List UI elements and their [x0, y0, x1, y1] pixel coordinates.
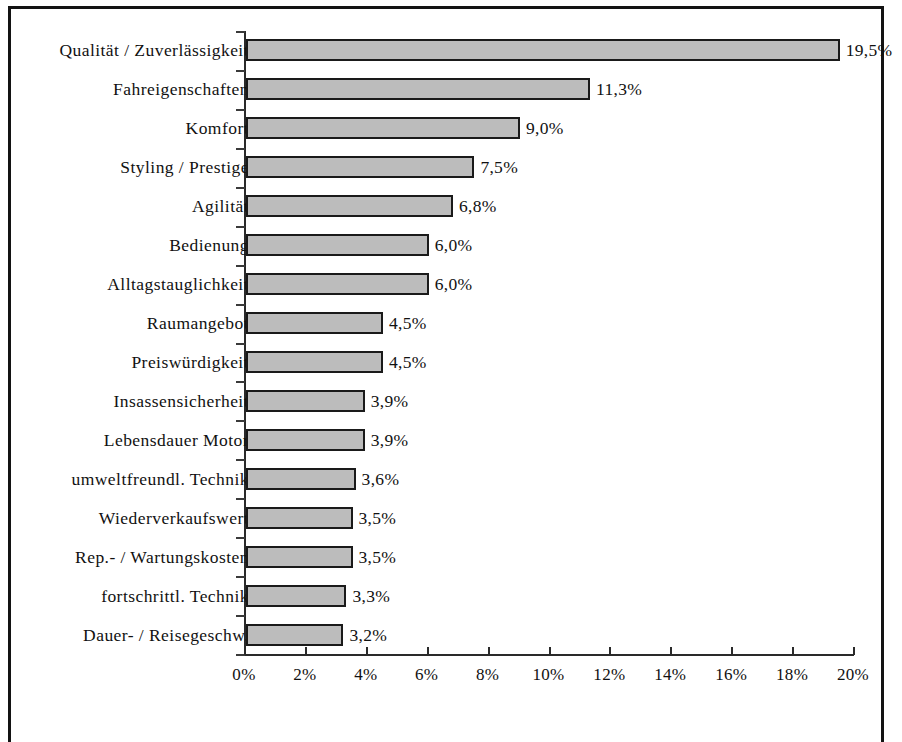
category-label: Komfort	[186, 118, 249, 139]
category-label: Wiederverkaufswert	[99, 507, 249, 528]
bar-value-label: 6,0%	[435, 235, 473, 256]
bar-value-label: 3,5%	[359, 546, 397, 567]
x-tick-label: 0%	[232, 665, 255, 685]
bar-row: Alltagstauglichkeit6,0%	[11, 265, 887, 304]
bar-row: Styling / Prestige7,5%	[11, 148, 887, 187]
category-label: Fahreigenschaften	[113, 79, 249, 100]
category-label: Preiswürdigkeit	[131, 351, 249, 372]
x-tick-label: 6%	[415, 665, 438, 685]
bar-value-label: 3,2%	[349, 624, 387, 645]
bar	[246, 234, 429, 256]
bar-chart: Qualität / Zuverlässigkeit19,5%Fahreigen…	[11, 9, 887, 709]
category-label: Dauer- / Reisegeschw.	[83, 624, 249, 645]
bar	[246, 156, 474, 178]
bar-row: umweltfreundl. Technik3,6%	[11, 459, 887, 498]
category-label: umweltfreundl. Technik	[72, 468, 249, 489]
bar	[246, 351, 383, 373]
bar-value-label: 4,5%	[389, 313, 427, 334]
category-label: Raumangebot	[147, 313, 249, 334]
bar	[246, 585, 346, 607]
bar	[246, 429, 365, 451]
category-label: Styling / Prestige	[120, 157, 249, 178]
bar	[246, 39, 840, 61]
category-label: Agilität	[192, 196, 249, 217]
bar-row: Insassensicherheit3,9%	[11, 381, 887, 420]
x-tick-label: 18%	[776, 665, 808, 685]
x-tick-label: 10%	[532, 665, 564, 685]
bar-value-label: 3,9%	[371, 390, 409, 411]
bar	[246, 390, 365, 412]
category-label: Alltagstauglichkeit	[107, 274, 249, 295]
bar-row: Lebensdauer Motor3,9%	[11, 420, 887, 459]
category-label: Bedienung	[169, 235, 249, 256]
bar-value-label: 3,5%	[359, 507, 397, 528]
x-tick-label: 2%	[293, 665, 316, 685]
category-label: Rep.- / Wartungskosten	[75, 546, 249, 567]
bar-row: fortschrittl. Technik3,3%	[11, 576, 887, 615]
bar-row: Komfort9,0%	[11, 109, 887, 148]
x-tick-label: 20%	[837, 665, 869, 685]
bar-row: Raumangebot4,5%	[11, 304, 887, 343]
bar	[246, 312, 383, 334]
category-label: fortschrittl. Technik	[101, 585, 249, 606]
x-tick-label: 12%	[593, 665, 625, 685]
category-label: Lebensdauer Motor	[104, 429, 249, 450]
bar	[246, 468, 356, 490]
bar-value-label: 3,9%	[371, 429, 409, 450]
x-tick-label: 14%	[654, 665, 686, 685]
bar-value-label: 3,3%	[352, 585, 390, 606]
bar	[246, 195, 453, 217]
bar-row: Rep.- / Wartungskosten3,5%	[11, 537, 887, 576]
category-label: Qualität / Zuverlässigkeit	[59, 40, 249, 61]
bar-value-label: 11,3%	[596, 79, 642, 100]
bar	[246, 273, 429, 295]
bar-value-label: 9,0%	[526, 118, 564, 139]
bar-row: Dauer- / Reisegeschw.3,2%	[11, 615, 887, 654]
bar-row: Agilität6,8%	[11, 187, 887, 226]
bar	[246, 78, 590, 100]
x-tick-label: 8%	[476, 665, 499, 685]
bar-value-label: 7,5%	[480, 157, 518, 178]
x-tick-label: 4%	[354, 665, 377, 685]
chart-frame: Qualität / Zuverlässigkeit19,5%Fahreigen…	[8, 6, 884, 742]
bar-row: Fahreigenschaften11,3%	[11, 70, 887, 109]
bar	[246, 624, 343, 646]
bar	[246, 546, 353, 568]
bar-row: Wiederverkaufswert3,5%	[11, 498, 887, 537]
bar-value-label: 6,8%	[459, 196, 497, 217]
bar-row: Qualität / Zuverlässigkeit19,5%	[11, 31, 887, 70]
bar-value-label: 19,5%	[846, 40, 893, 61]
bar	[246, 507, 353, 529]
x-tick-label: 16%	[715, 665, 747, 685]
bar-row: Preiswürdigkeit4,5%	[11, 343, 887, 382]
bar-value-label: 3,6%	[362, 468, 400, 489]
category-label: Insassensicherheit	[114, 390, 249, 411]
bar	[246, 117, 520, 139]
bar-value-label: 4,5%	[389, 351, 427, 372]
bar-value-label: 6,0%	[435, 274, 473, 295]
bar-row: Bedienung6,0%	[11, 226, 887, 265]
